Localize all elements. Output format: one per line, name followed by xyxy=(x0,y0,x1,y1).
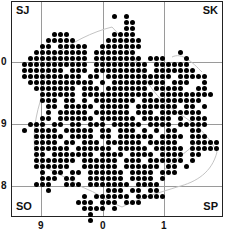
record-dot xyxy=(142,68,147,73)
record-dot xyxy=(196,92,201,97)
record-dot xyxy=(118,188,123,193)
record-dot xyxy=(118,98,123,103)
record-dot xyxy=(136,164,141,169)
record-dot xyxy=(94,206,99,211)
record-dot xyxy=(124,140,129,145)
record-dot xyxy=(196,122,201,127)
record-dot xyxy=(34,152,39,157)
record-dot xyxy=(118,74,123,79)
record-dot xyxy=(154,68,159,73)
record-dot xyxy=(166,92,171,97)
record-dot xyxy=(40,170,45,175)
record-dot xyxy=(154,80,159,85)
record-dot xyxy=(136,38,141,43)
record-dot xyxy=(106,116,111,121)
record-dot xyxy=(88,80,93,85)
record-dot xyxy=(34,62,39,67)
record-dot xyxy=(172,164,177,169)
record-dot xyxy=(202,116,207,121)
record-dot xyxy=(202,140,207,145)
record-dot xyxy=(154,146,159,151)
record-dot xyxy=(202,80,207,85)
record-dot xyxy=(136,86,141,91)
record-dot xyxy=(178,122,183,127)
record-dot xyxy=(130,176,135,181)
record-dot xyxy=(94,170,99,175)
record-dot xyxy=(118,128,123,133)
record-dot xyxy=(82,164,87,169)
record-dot xyxy=(130,170,135,175)
record-dot xyxy=(28,80,33,85)
record-dot xyxy=(106,110,111,115)
record-dot xyxy=(106,98,111,103)
record-dot xyxy=(154,122,159,127)
record-dot xyxy=(82,152,87,157)
record-dot xyxy=(154,164,159,169)
record-dot xyxy=(112,74,117,79)
record-dot xyxy=(142,116,147,121)
record-dot xyxy=(106,62,111,67)
record-dot xyxy=(94,92,99,97)
record-dot xyxy=(112,68,117,73)
record-dot xyxy=(118,80,123,85)
record-dot xyxy=(58,110,63,115)
record-dot xyxy=(130,98,135,103)
record-dot xyxy=(52,92,57,97)
record-dot xyxy=(166,68,171,73)
record-dot xyxy=(190,116,195,121)
x-tick-1: 1 xyxy=(161,220,167,231)
record-dot xyxy=(100,44,105,49)
record-dot xyxy=(124,20,129,25)
record-dot xyxy=(130,152,135,157)
record-dot xyxy=(58,32,63,37)
record-dot xyxy=(112,206,117,211)
record-dot xyxy=(196,134,201,139)
record-dot xyxy=(172,110,177,115)
record-dot xyxy=(64,38,69,43)
record-dot xyxy=(142,74,147,79)
record-dot xyxy=(70,74,75,79)
record-dot xyxy=(124,110,129,115)
record-dot xyxy=(124,56,129,61)
record-dot xyxy=(166,98,171,103)
record-dot xyxy=(190,146,195,151)
record-dot xyxy=(208,146,213,151)
record-dot xyxy=(118,194,123,199)
record-dot xyxy=(136,200,141,205)
record-dot xyxy=(142,194,147,199)
record-dot xyxy=(178,50,183,55)
record-dot xyxy=(34,158,39,163)
record-dot xyxy=(82,68,87,73)
record-dot xyxy=(142,164,147,169)
record-dot xyxy=(88,122,93,127)
record-dot xyxy=(40,74,45,79)
record-dot xyxy=(34,56,39,61)
record-dot xyxy=(178,146,183,151)
record-dot xyxy=(160,68,165,73)
record-dot xyxy=(88,200,93,205)
record-dot xyxy=(64,152,69,157)
record-dot xyxy=(118,134,123,139)
record-dot xyxy=(172,92,177,97)
record-dot xyxy=(112,188,117,193)
record-dot xyxy=(106,50,111,55)
record-dot xyxy=(34,50,39,55)
record-dot xyxy=(76,146,81,151)
record-dot xyxy=(142,176,147,181)
record-dot xyxy=(40,62,45,67)
record-dot xyxy=(100,50,105,55)
record-dot xyxy=(82,62,87,67)
record-dot xyxy=(160,98,165,103)
record-dot xyxy=(166,74,171,79)
record-dot xyxy=(136,56,141,61)
record-dot xyxy=(160,80,165,85)
record-dot xyxy=(112,98,117,103)
record-dot xyxy=(34,182,39,187)
record-dot xyxy=(154,158,159,163)
record-dot xyxy=(34,134,39,139)
record-dot xyxy=(160,92,165,97)
record-dot xyxy=(190,128,195,133)
record-dot xyxy=(148,116,153,121)
record-dot xyxy=(160,176,165,181)
record-dot xyxy=(46,92,51,97)
